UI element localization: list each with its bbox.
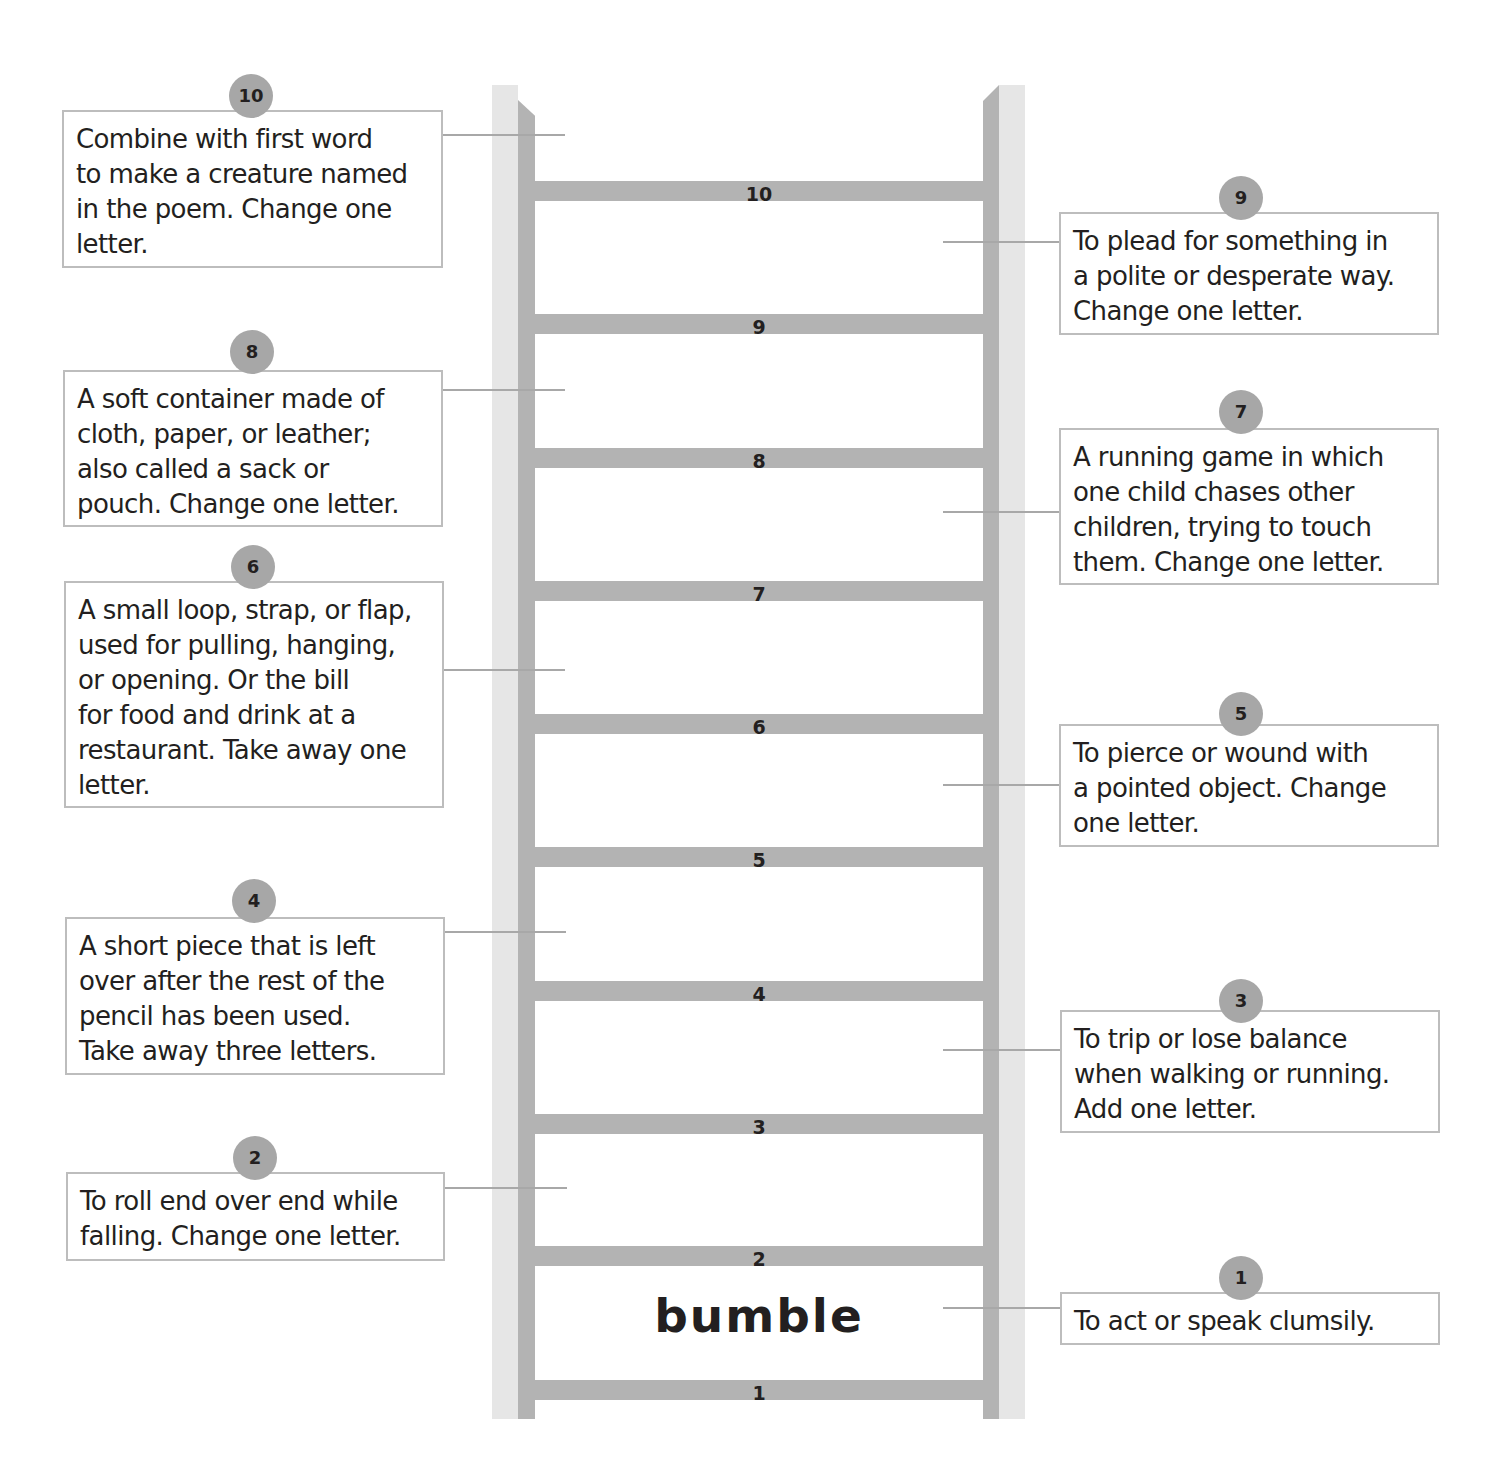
clue-number-badge-7: 7	[1219, 390, 1263, 434]
answer-slot-9[interactable]	[535, 201, 983, 314]
clue-box-1: To act or speak clumsily.	[1060, 1292, 1440, 1345]
ladder-rung-3: 3	[533, 1114, 985, 1134]
ladder-rung-5: 5	[533, 847, 985, 867]
clue-box-5: To pierce or wound with a pointed object…	[1059, 724, 1439, 847]
rung-number: 1	[533, 1383, 985, 1403]
rung-number: 2	[533, 1249, 985, 1269]
connector-4	[444, 931, 566, 933]
connector-7	[943, 511, 1060, 513]
connector-5	[943, 784, 1060, 786]
clue-box-9: To plead for something in a polite or de…	[1059, 212, 1439, 335]
ladder-rung-4: 4	[533, 981, 985, 1001]
ladder-rung-8: 8	[533, 448, 985, 468]
clue-number-badge-8: 8	[230, 330, 274, 374]
ladder-right-rail-side	[983, 85, 999, 1419]
clue-box-10: Combine with first word to make a creatu…	[62, 110, 443, 268]
answer-slot-7[interactable]	[535, 468, 983, 581]
clue-box-2: To roll end over end while falling. Chan…	[66, 1172, 445, 1261]
clue-number-badge-1: 1	[1219, 1256, 1263, 1300]
start-word: bumble	[535, 1288, 983, 1343]
clue-number-badge-3: 3	[1219, 979, 1263, 1023]
answer-slot-10[interactable]	[535, 100, 983, 181]
ladder-rung-7: 7	[533, 581, 985, 601]
clue-number-badge-10: 10	[229, 74, 273, 118]
ladder-rung-1: 1	[533, 1380, 985, 1400]
ladder-rung-6: 6	[533, 714, 985, 734]
connector-9	[943, 241, 1060, 243]
connector-2	[445, 1187, 567, 1189]
ladder-left-rail-side	[518, 100, 535, 1419]
clue-number-badge-2: 2	[233, 1136, 277, 1180]
clue-box-8: A soft container made of cloth, paper, o…	[63, 370, 443, 527]
clue-box-6: A small loop, strap, or flap, used for p…	[64, 581, 444, 808]
ladder-right-rail-face	[999, 85, 1025, 1419]
clue-number-badge-4: 4	[232, 879, 276, 923]
connector-8	[441, 389, 565, 391]
answer-slot-4[interactable]	[535, 867, 983, 981]
ladder-rung-2: 2	[533, 1246, 985, 1266]
connector-6	[443, 669, 565, 671]
clue-number-badge-6: 6	[231, 545, 275, 589]
clue-box-7: A running game in which one child chases…	[1059, 428, 1439, 585]
connector-10	[441, 134, 565, 136]
ladder-rung-9: 9	[533, 314, 985, 334]
ladder-rung-10: 10	[533, 181, 985, 201]
answer-slot-2[interactable]	[535, 1134, 983, 1246]
answer-slot-8[interactable]	[535, 334, 983, 448]
connector-1	[943, 1307, 1060, 1309]
connector-3	[943, 1049, 1060, 1051]
answer-slot-5[interactable]	[535, 734, 983, 847]
ladder-left-rail-face	[492, 85, 518, 1419]
clue-box-4: A short piece that is left over after th…	[65, 917, 445, 1075]
clue-box-3: To trip or lose balance when walking or …	[1060, 1010, 1440, 1133]
clue-number-badge-5: 5	[1219, 692, 1263, 736]
answer-slot-6[interactable]	[535, 601, 983, 714]
clue-number-badge-9: 9	[1219, 176, 1263, 220]
answer-slot-3[interactable]	[535, 1001, 983, 1114]
